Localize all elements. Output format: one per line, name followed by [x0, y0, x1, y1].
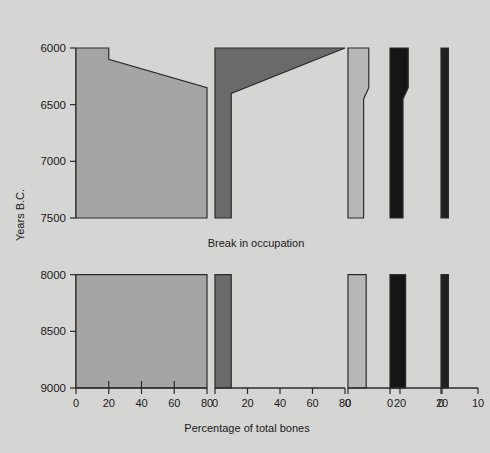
y-tick-label: 9000: [40, 382, 66, 394]
y-tick-label: 8500: [40, 325, 66, 337]
area-sheep_goat-lower: [215, 275, 231, 388]
x-tick-label: 10: [472, 397, 484, 409]
chart-svg: 6000650070007500800085009000 02040608002…: [0, 0, 490, 453]
x-tick-label: 20: [241, 397, 253, 409]
area-wild_cattle-lower: [390, 275, 406, 388]
x-tick-label: 0: [345, 397, 351, 409]
y-tick-label: 7000: [40, 155, 66, 167]
x-tick-label: 20: [394, 397, 406, 409]
y-tick-label: 6500: [40, 99, 66, 111]
x-tick-label: 0: [212, 397, 218, 409]
x-tick-label: 60: [168, 397, 180, 409]
x-tick-label: 0: [73, 397, 79, 409]
chart-figure: 6000650070007500800085009000 02040608002…: [0, 0, 490, 453]
break-in-occupation-label: Break in occupation: [208, 237, 305, 249]
x-tick-label: 0: [438, 397, 444, 409]
area-wild_ass-lower: [348, 275, 366, 388]
x-tick-label: 0: [387, 397, 393, 409]
x-tick-label: 60: [306, 397, 318, 409]
panel-wild_pig_deer: [441, 48, 448, 388]
area-gazelle-lower: [76, 275, 207, 388]
x-axis-title: Percentage of total bones: [184, 422, 310, 434]
y-axis-title: Years B.C.: [14, 189, 26, 241]
area-wild_pig_deer-lower: [441, 275, 448, 388]
x-tick-label: 20: [103, 397, 115, 409]
x-tick-label: 40: [135, 397, 147, 409]
panel-gazelle: [76, 48, 207, 388]
y-tick-label: 8000: [40, 269, 66, 281]
area-wild_pig_deer-upper: [441, 48, 448, 218]
y-tick-label: 6000: [40, 42, 66, 54]
x-tick-label: 40: [274, 397, 286, 409]
y-tick-label: 7500: [40, 212, 66, 224]
